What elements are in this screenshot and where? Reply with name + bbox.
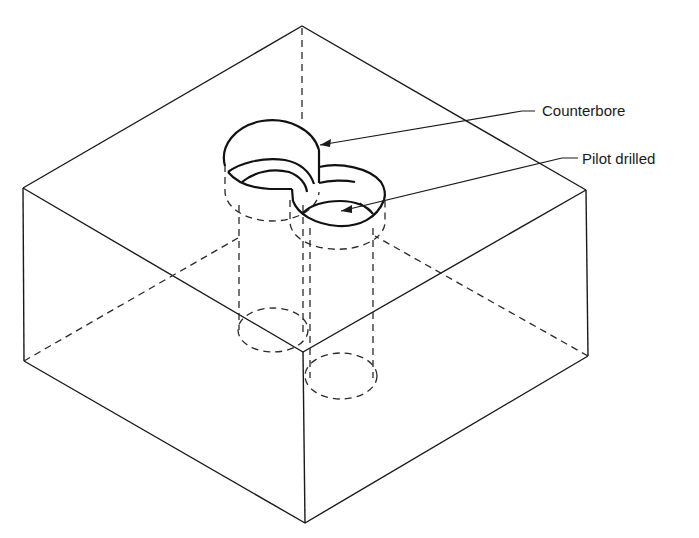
right-pilot-bottom-ellipse <box>305 353 377 399</box>
top-back-edges <box>23 26 586 190</box>
right-counterbore-junction <box>319 181 355 183</box>
right-counterbore-hidden-wall <box>290 197 385 249</box>
left-pilot-bottom-ellipse <box>238 308 308 352</box>
block-outline <box>23 26 588 523</box>
pilot-leader <box>341 158 578 211</box>
counterbore-label: Counterbore <box>542 103 625 118</box>
block-diagram <box>0 0 699 538</box>
counterbore-holes <box>224 120 385 226</box>
pilot-drilled-label: Pilot drilled <box>582 151 655 166</box>
hidden-cylinders <box>225 165 385 399</box>
left-counterbore-front-edge <box>228 172 292 189</box>
hidden-left-back-edge <box>24 238 238 361</box>
hidden-right-back-edge <box>375 236 588 356</box>
counterbore-arrowhead-icon <box>320 139 331 147</box>
left-counterbore-hidden-wall <box>225 165 319 221</box>
right-pilot-top-edge <box>303 201 373 214</box>
hidden-edges <box>24 28 588 361</box>
front-vertical-edge <box>303 352 305 523</box>
counterbore-leader <box>320 111 535 145</box>
pilot-arrowhead-icon <box>341 205 352 213</box>
left-vertical-edge <box>23 188 24 361</box>
right-counterbore-rim <box>319 165 385 200</box>
right-vertical-edge <box>586 190 588 356</box>
left-counterbore-step <box>292 189 293 201</box>
leader-lines <box>320 111 578 213</box>
